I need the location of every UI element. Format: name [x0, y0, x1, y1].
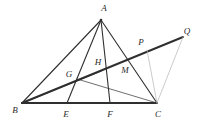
vertex-label-E: E — [63, 110, 69, 119]
geometry-figure: ABCEFGHMPQ — [0, 0, 207, 126]
vertex-layer — [100, 19, 103, 22]
vertex-label-G: G — [66, 70, 73, 79]
vertex-label-A: A — [101, 4, 107, 13]
vertex-label-F: F — [107, 110, 113, 119]
vertex-label-P: P — [138, 38, 144, 47]
vertex-dot-a — [100, 19, 103, 22]
vertex-label-M: M — [121, 66, 129, 75]
vertex-label-B: B — [12, 106, 18, 115]
segment-GC — [77, 79, 157, 103]
vertex-label-H: H — [95, 58, 102, 67]
segment-AB — [22, 20, 101, 103]
vertex-label-C: C — [155, 110, 161, 119]
figure-canvas — [0, 0, 207, 126]
vertex-label-Q: Q — [184, 27, 191, 36]
segment-AC — [101, 20, 157, 103]
segment-BH — [22, 71, 101, 103]
segment-AF — [101, 20, 110, 103]
segment-layer — [22, 20, 183, 103]
